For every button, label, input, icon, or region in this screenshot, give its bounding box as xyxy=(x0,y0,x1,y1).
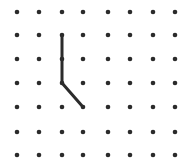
grid-dot xyxy=(151,153,156,158)
grid-dot xyxy=(151,57,156,62)
grid-dot xyxy=(15,10,20,15)
grid-dot xyxy=(128,81,133,86)
grid-dot xyxy=(106,57,111,62)
grid-dot xyxy=(173,105,178,110)
grid-dot xyxy=(173,153,178,158)
grid-dot xyxy=(37,105,42,110)
grid-dot xyxy=(37,130,42,135)
grid-dot xyxy=(37,10,42,15)
grid-dot xyxy=(173,57,178,62)
grid-dot xyxy=(106,81,111,86)
grid-dot xyxy=(173,10,178,15)
grid-dot xyxy=(81,33,86,38)
grid-dot xyxy=(128,153,133,158)
grid-dot xyxy=(37,81,42,86)
grid-dot xyxy=(173,81,178,86)
grid-dot xyxy=(106,10,111,15)
grid-dot xyxy=(81,153,86,158)
dot-grid-diagram xyxy=(0,0,187,165)
grid-dot xyxy=(151,81,156,86)
grid-dot xyxy=(15,57,20,62)
grid-dots xyxy=(15,10,178,158)
grid-dot xyxy=(37,153,42,158)
grid-dot xyxy=(15,105,20,110)
grid-dot xyxy=(60,153,65,158)
grid-dot xyxy=(106,33,111,38)
grid-dot xyxy=(128,10,133,15)
grid-dot xyxy=(15,130,20,135)
drawn-line-path xyxy=(62,35,83,107)
grid-dot xyxy=(106,130,111,135)
grid-dot xyxy=(60,105,65,110)
grid-dot xyxy=(128,105,133,110)
grid-dot xyxy=(151,130,156,135)
grid-dot xyxy=(81,130,86,135)
grid-dot xyxy=(106,153,111,158)
grid-dot xyxy=(60,10,65,15)
grid-dot xyxy=(151,10,156,15)
grid-dot xyxy=(81,81,86,86)
grid-dot xyxy=(37,57,42,62)
grid-dot xyxy=(128,33,133,38)
grid-dot xyxy=(81,10,86,15)
grid-dot xyxy=(173,130,178,135)
grid-dot xyxy=(15,33,20,38)
grid-dot xyxy=(81,57,86,62)
grid-dot xyxy=(128,130,133,135)
grid-dot xyxy=(106,105,111,110)
grid-dot xyxy=(151,33,156,38)
grid-dot xyxy=(173,33,178,38)
grid-dot xyxy=(60,130,65,135)
grid-dot xyxy=(37,33,42,38)
grid-dot xyxy=(15,153,20,158)
grid-dot xyxy=(128,57,133,62)
grid-dot xyxy=(151,105,156,110)
grid-dot xyxy=(15,81,20,86)
